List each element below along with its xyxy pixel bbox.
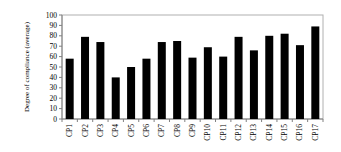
y-tick-label: 100 [46, 11, 58, 20]
x-axis-ticks: CP1CP2CP3CP4CP5CP6CP7CP8CP9CP10CP11CP12C… [62, 119, 323, 141]
x-tick-label: CP12 [234, 124, 243, 141]
bar-cp2 [81, 37, 89, 119]
y-tick-label: 60 [50, 52, 58, 61]
bar-cp9 [189, 58, 197, 119]
bar-cp11 [219, 57, 227, 119]
x-tick-label: CP2 [81, 124, 90, 137]
bar-cp12 [235, 37, 243, 119]
bar-cp14 [265, 36, 273, 119]
y-tick-label: 70 [50, 42, 58, 51]
y-axis-label-text: Degree of compliance (average) [23, 22, 31, 112]
bar-cp1 [66, 59, 74, 119]
x-tick-label: CP9 [188, 124, 197, 137]
x-tick-label: CP17 [311, 124, 320, 141]
x-tick-label: CP4 [111, 124, 120, 137]
bar-cp4 [112, 77, 120, 119]
x-tick-label: CP13 [249, 124, 258, 141]
x-tick-label: CP1 [65, 124, 74, 137]
x-tick-label: CP15 [280, 124, 289, 141]
y-tick-label: 40 [50, 73, 58, 82]
bar-cp6 [142, 59, 150, 119]
y-tick-label: 90 [50, 21, 58, 30]
x-tick-label: CP5 [127, 124, 136, 137]
y-tick-label: 0 [53, 115, 57, 124]
bar-cp10 [204, 47, 212, 119]
x-tick-label: CP7 [157, 124, 166, 137]
y-tick-label: 30 [50, 83, 58, 92]
x-tick-label: CP11 [219, 124, 228, 141]
x-tick-label: CP10 [203, 124, 212, 141]
y-tick-label: 10 [50, 104, 58, 113]
y-axis-ticks: 0102030405060708090100 [46, 11, 62, 124]
bar-cp3 [96, 42, 104, 119]
bar-cp17 [311, 26, 319, 119]
bar-cp15 [281, 34, 289, 119]
x-tick-label: CP16 [295, 124, 304, 141]
x-tick-label: CP8 [173, 124, 182, 137]
bar-chart: 0102030405060708090100 CP1CP2CP3CP4CP5CP… [0, 0, 341, 152]
bar-cp8 [173, 41, 181, 119]
y-tick-label: 80 [50, 31, 58, 40]
bar-cp7 [158, 42, 166, 119]
bar-cp13 [250, 50, 258, 119]
bars [66, 26, 320, 119]
bar-cp5 [127, 67, 135, 119]
y-tick-label: 50 [50, 63, 58, 72]
x-tick-label: CP3 [96, 124, 105, 137]
bar-cp16 [296, 45, 304, 119]
x-tick-label: CP14 [265, 124, 274, 141]
y-tick-label: 20 [50, 94, 58, 103]
x-tick-label: CP6 [142, 124, 151, 137]
